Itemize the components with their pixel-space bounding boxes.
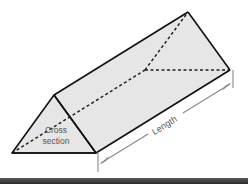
arrowhead-right-icon (222, 82, 232, 91)
arrowhead-left-icon (99, 156, 109, 165)
triangular-prism-diagram: Length Cross section (0, 0, 248, 184)
cross-section-label-line1: Cross (45, 125, 67, 135)
cross-section-label-line2: section (43, 136, 70, 146)
bottom-band (0, 178, 248, 184)
